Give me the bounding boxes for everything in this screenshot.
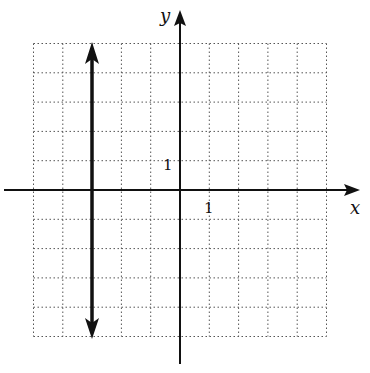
x-tick-label: 1 bbox=[204, 199, 214, 217]
y-axis-label: y bbox=[159, 5, 171, 26]
x-axis-label: x bbox=[350, 197, 360, 218]
coordinate-plane: y x 1 1 bbox=[0, 0, 370, 373]
y-tick-label: 1 bbox=[163, 156, 173, 174]
